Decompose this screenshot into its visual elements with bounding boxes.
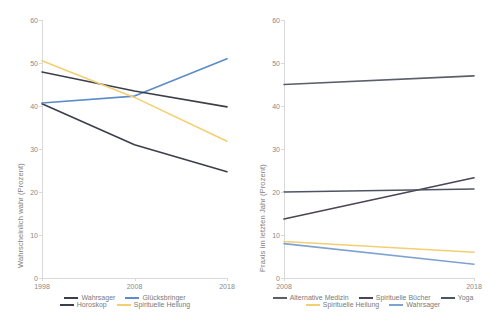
l-x-tick-mark (135, 278, 136, 281)
right-series-lines (284, 20, 474, 278)
r-y-tick-label: 30 (258, 146, 280, 153)
legend-item-label: Spirituelle Bücher (376, 294, 431, 301)
legend-swatch-icon (273, 297, 287, 299)
legend-swatch-icon (117, 304, 131, 306)
legend-row: WahrsagerGlücksbringer (30, 294, 220, 301)
l-x-tick-label: 1998 (34, 283, 50, 290)
r-y-tick-label: 50 (258, 60, 280, 67)
r-y-tick-label: 40 (258, 103, 280, 110)
series-line (284, 76, 474, 85)
l-x-tick-mark (227, 278, 228, 281)
right-y-axis-title: Praxis im letzten Jahr (Prozent) (258, 164, 267, 272)
right-plot-area (284, 20, 474, 278)
legend-swatch-icon (125, 297, 139, 299)
legend-item[interactable]: Yoga (441, 294, 474, 301)
right-x-axis-line (284, 278, 474, 279)
l-y-tick-mark (39, 192, 42, 193)
legend-item-label: Yoga (458, 294, 474, 301)
series-line (42, 59, 227, 103)
l-y-tick-label: 20 (16, 189, 38, 196)
legend-row: HoroskopSpirituelle Heilung (30, 301, 220, 308)
legend-item[interactable]: Wahrsager (389, 301, 440, 308)
r-y-tick-mark (281, 63, 284, 64)
series-line (42, 104, 227, 172)
legend-swatch-icon (64, 297, 78, 299)
r-x-tick-label: 2018 (466, 283, 482, 290)
r-y-tick-mark (281, 235, 284, 236)
r-y-tick-label: 10 (258, 232, 280, 239)
r-y-tick-mark (281, 149, 284, 150)
l-y-tick-label: 0 (16, 275, 38, 282)
legend-item[interactable]: Spirituelle Heilung (306, 301, 379, 308)
legend-row: Alternative MedizinSpirituelle BücherYog… (264, 294, 482, 301)
l-x-tick-mark (42, 278, 43, 281)
legend-item[interactable]: Horoskop (60, 301, 107, 308)
l-y-tick-label: 40 (16, 103, 38, 110)
legend-item-label: Wahrsager (81, 294, 115, 301)
l-y-tick-label: 50 (16, 60, 38, 67)
left-series-lines (42, 20, 227, 278)
l-y-tick-mark (39, 63, 42, 64)
series-line (284, 178, 474, 219)
chart-panel-right: Praxis im letzten Jahr (Prozent) 0102030… (244, 0, 488, 331)
l-y-tick-mark (39, 149, 42, 150)
legend-item-label: Spirituelle Heilung (134, 301, 190, 308)
l-x-tick-label: 2008 (127, 283, 143, 290)
legend-item-label: Glücksbringer (142, 294, 185, 301)
figure-two-line-charts: Wahrscheinlich wahr (Prozent) 0102030405… (0, 0, 488, 331)
l-y-tick-label: 10 (16, 232, 38, 239)
left-plot-area (42, 20, 227, 278)
l-y-tick-mark (39, 106, 42, 107)
l-y-tick-mark (39, 20, 42, 21)
right-legend: Alternative MedizinSpirituelle BücherYog… (264, 294, 482, 308)
legend-item[interactable]: Spirituelle Bücher (359, 294, 431, 301)
left-y-axis-title: Wahrscheinlich wahr (Prozent) (16, 163, 25, 268)
legend-row: Spirituelle HeilungWahrsager (264, 301, 482, 308)
legend-item-label: Wahrsager (406, 301, 440, 308)
legend-swatch-icon (389, 304, 403, 306)
legend-swatch-icon (60, 304, 74, 306)
legend-item-label: Horoskop (77, 301, 107, 308)
l-y-tick-label: 30 (16, 146, 38, 153)
r-y-tick-label: 0 (258, 275, 280, 282)
legend-item-label: Spirituelle Heilung (323, 301, 379, 308)
r-y-tick-mark (281, 106, 284, 107)
l-y-tick-mark (39, 235, 42, 236)
series-line (284, 189, 474, 192)
r-x-tick-mark (474, 278, 475, 281)
legend-item[interactable]: Spirituelle Heilung (117, 301, 190, 308)
legend-swatch-icon (359, 297, 373, 299)
l-x-tick-label: 2018 (219, 283, 235, 290)
left-legend: WahrsagerGlücksbringerHoroskopSpirituell… (30, 294, 220, 308)
r-y-tick-mark (281, 20, 284, 21)
r-y-tick-mark (281, 192, 284, 193)
r-y-tick-label: 20 (258, 189, 280, 196)
chart-panel-left: Wahrscheinlich wahr (Prozent) 0102030405… (0, 0, 244, 331)
legend-item[interactable]: Wahrsager (64, 294, 115, 301)
r-y-tick-label: 60 (258, 17, 280, 24)
legend-swatch-icon (306, 304, 320, 306)
legend-item[interactable]: Glücksbringer (125, 294, 185, 301)
r-x-tick-mark (284, 278, 285, 281)
legend-swatch-icon (441, 297, 455, 299)
r-x-tick-label: 2008 (276, 283, 292, 290)
legend-item-label: Alternative Medizin (290, 294, 349, 301)
l-y-tick-label: 60 (16, 17, 38, 24)
legend-item[interactable]: Alternative Medizin (273, 294, 349, 301)
